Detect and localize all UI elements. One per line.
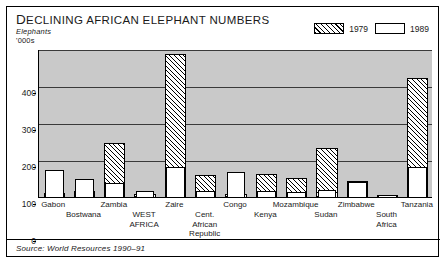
bar-group [69, 50, 99, 198]
x-axis-label: Bostwana [52, 210, 116, 220]
legend-item-1979: 1979 [314, 23, 368, 34]
bar-group [191, 50, 221, 198]
x-axis-label: SouthAfrica [355, 210, 419, 229]
source-note: Source: World Resources 1990–91 [16, 244, 145, 253]
x-axis-label: Sudan [294, 210, 358, 220]
bar-1989 [348, 182, 367, 198]
bar-1989 [287, 192, 306, 198]
bar-group [39, 50, 69, 198]
y-tick-mark-400 [33, 93, 36, 94]
axis-unit-elephants: Elephants [16, 27, 51, 36]
bar-1989 [45, 170, 64, 198]
bar-1989 [196, 191, 215, 198]
source-divider [7, 239, 440, 240]
x-axis-labels: GabonBostwanaZambiaWESTAFRICAZaireCent.A… [7, 199, 440, 239]
y-tick-mark-300 [33, 130, 36, 131]
legend-label-1979: 1979 [349, 24, 368, 34]
bar-group [100, 50, 130, 198]
x-axis-label: Tanzania [385, 200, 447, 210]
title-lead-cap: D [16, 12, 26, 27]
bar-group [160, 50, 190, 198]
bar-group [221, 50, 251, 198]
chart-frame: DECLINING AFRICAN ELEPHANT NUMBERS Eleph… [6, 6, 439, 257]
bar-1989 [75, 179, 94, 198]
bar-1989 [408, 167, 427, 198]
bar-group [251, 50, 281, 198]
x-axis-label: Gabon [21, 200, 85, 210]
bar-1989 [105, 183, 124, 198]
x-axis-label: Zambia [82, 200, 146, 210]
chart-legend: 1979 1989 [314, 23, 429, 34]
y-tick-mark-200 [33, 167, 36, 168]
x-axis-label: Kenya [233, 210, 297, 220]
x-axis-label: WESTAFRICA [112, 210, 176, 229]
plot-area [38, 50, 432, 198]
bar-group [130, 50, 160, 198]
title-text: ECLINING AFRICAN ELEPHANT NUMBERS [26, 14, 269, 26]
x-axis-label: Mozambique [264, 200, 328, 210]
y-axis: 0100200300400 [7, 50, 36, 200]
bar-group [403, 50, 433, 198]
y-tick-mark-0 [33, 241, 36, 242]
bar-1989 [378, 195, 397, 198]
bar-group [342, 50, 372, 198]
bar-1989 [257, 191, 276, 198]
page-title: DECLINING AFRICAN ELEPHANT NUMBERS [16, 12, 269, 27]
legend-item-1989: 1989 [375, 23, 429, 34]
legend-swatch-1989 [375, 23, 405, 34]
legend-label-1989: 1989 [410, 24, 429, 34]
x-axis-label: Zaire [143, 200, 207, 210]
x-axis-label: Zimbabwe [324, 200, 388, 210]
legend-swatch-1979 [314, 23, 344, 34]
x-axis-label: Cent.AfricanRepublic [173, 210, 237, 239]
bar-1989 [166, 167, 185, 198]
bar-1989 [318, 190, 337, 198]
bar-1989 [227, 172, 246, 198]
bar-group [372, 50, 402, 198]
axis-unit-thousands: '000s [16, 36, 35, 45]
bar-group [281, 50, 311, 198]
x-axis-label: Congo [203, 200, 267, 210]
bar-1989 [136, 191, 155, 198]
bar-group [312, 50, 342, 198]
